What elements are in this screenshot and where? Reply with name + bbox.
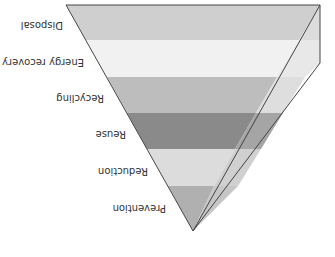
label-energy-recovery: Energy recovery [2,57,84,68]
band-disposal [66,5,320,40]
label-recycling: Recycling [56,93,104,104]
band-reuse [127,113,256,149]
band-recycling [107,77,277,113]
label-prevention: Prevention [113,203,166,214]
label-reduction: Reduction [98,166,148,177]
label-reuse: Reuse [96,129,126,140]
band-energy-recovery [86,40,299,77]
waste-hierarchy-diagram: Disposal Energy recovery Recycling Reuse… [0,0,335,257]
label-disposal: Disposal [21,20,63,31]
